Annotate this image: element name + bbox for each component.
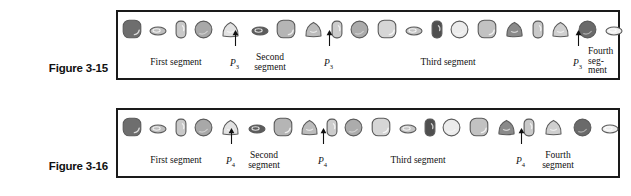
organism-ellipse-icon xyxy=(605,26,623,36)
pointer-arrow-icon xyxy=(518,128,525,144)
organism-rounded-square-icon xyxy=(273,117,293,137)
organism-rounded-square-icon xyxy=(276,19,296,39)
pointer-arrow-icon xyxy=(575,30,582,46)
organism-triangle-icon xyxy=(497,119,516,136)
organism-triangle-icon xyxy=(551,21,570,38)
organism-rounded-square-icon xyxy=(477,19,497,39)
segment-label: Fourth segment xyxy=(535,151,581,170)
organism-capsule-icon xyxy=(175,118,187,137)
segment-label: Fourth seg- ment xyxy=(588,47,622,76)
organism-circle-icon xyxy=(573,118,592,137)
organism-triangle-icon xyxy=(505,21,524,38)
figure-caption-3-15: Figure 3-15 xyxy=(8,62,108,74)
organism-ellipse-icon xyxy=(399,124,417,134)
organism-triangle-icon xyxy=(300,119,319,136)
pointer-arrow-icon xyxy=(232,30,239,46)
p-marker-subscript: 4 xyxy=(522,161,525,168)
organism-rounded-square-icon xyxy=(122,19,142,39)
organism-rounded-square-icon xyxy=(371,117,391,137)
segment-label: Third segment xyxy=(390,156,445,166)
p-marker-subscript: 3 xyxy=(579,63,582,70)
figure-caption-3-16: Figure 3-16 xyxy=(8,160,108,172)
pointer-arrow-icon xyxy=(326,30,333,46)
organism-ellipse-icon xyxy=(248,124,266,134)
pointer-arrow-icon xyxy=(320,128,327,144)
figure-3-15: Figure 3-15 xyxy=(0,0,631,98)
organism-rounded-square-icon xyxy=(469,117,489,137)
label-row-3-16: First segmentSecond segmentThird segment… xyxy=(118,144,618,178)
organism-triangle-icon xyxy=(544,119,563,136)
p-marker-label: P4 xyxy=(226,156,235,168)
p-marker-label: P4 xyxy=(516,156,525,168)
organism-circle-icon xyxy=(194,118,213,137)
p-marker-subscript: 4 xyxy=(324,161,327,168)
organism-circle-icon xyxy=(450,20,469,39)
figure-panel-3-16: First segmentSecond segmentThird segment… xyxy=(116,108,620,178)
segment-label: Third segment xyxy=(420,58,475,68)
organism-ellipse-icon xyxy=(405,26,423,36)
figure-3-16: Figure 3-16 xyxy=(0,98,631,196)
segment-label: Second segment xyxy=(247,53,293,72)
segment-label: First segment xyxy=(150,156,201,166)
organism-ellipse-icon xyxy=(149,124,167,134)
organism-capsule-icon xyxy=(424,118,436,137)
organism-triangle-icon xyxy=(304,21,323,38)
organism-circle-icon xyxy=(442,118,461,137)
p-marker-label: P4 xyxy=(318,156,327,168)
p-marker-subscript: 4 xyxy=(232,161,235,168)
organism-circle-icon xyxy=(344,118,363,137)
organism-row-3-16 xyxy=(118,114,618,144)
pointer-arrow-icon xyxy=(228,128,235,144)
organism-ellipse-icon xyxy=(601,124,619,134)
organism-capsule-icon xyxy=(326,118,338,137)
p-marker-subscript: 3 xyxy=(330,63,333,70)
organism-capsule-icon xyxy=(431,20,443,39)
organism-ellipse-icon xyxy=(251,26,269,36)
organism-ellipse-icon xyxy=(149,26,167,36)
p-marker-label: P3 xyxy=(324,58,333,70)
organism-rounded-square-icon xyxy=(122,117,142,137)
organism-row-3-15 xyxy=(118,16,618,46)
segment-label: First segment xyxy=(150,58,201,68)
organism-capsule-icon xyxy=(175,20,187,39)
organism-circle-icon xyxy=(350,20,369,39)
label-row-3-15: First segmentSecond segmentThird segment… xyxy=(118,46,618,80)
p-marker-label: P3 xyxy=(230,58,239,70)
organism-rounded-square-icon xyxy=(377,19,397,39)
organism-capsule-icon xyxy=(532,20,544,39)
p-marker-subscript: 3 xyxy=(236,63,239,70)
organism-circle-icon xyxy=(194,20,213,39)
figure-panel-3-15: First segmentSecond segmentThird segment… xyxy=(116,10,620,80)
p-marker-label: P3 xyxy=(573,58,582,70)
segment-label: Second segment xyxy=(241,151,287,170)
